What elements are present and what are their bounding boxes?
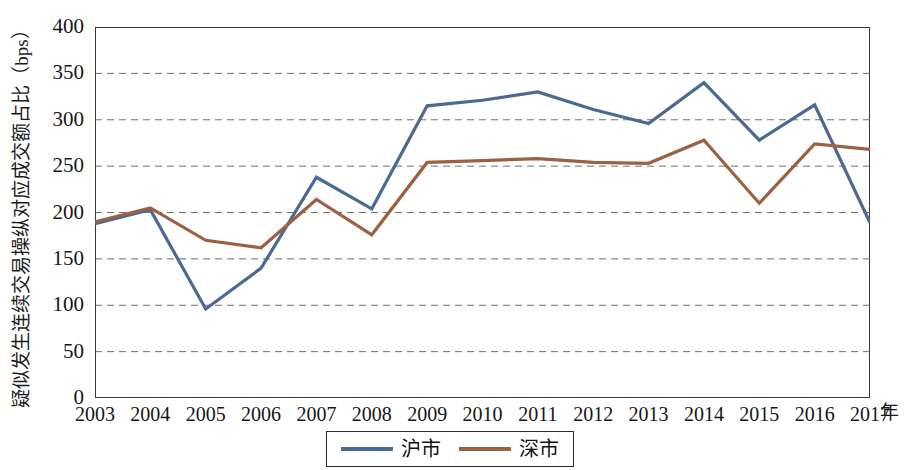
chart-page: 疑似发生连续交易操纵对应成交额占比（bps） 05010015020025030…	[0, 0, 920, 470]
x-axis-unit-label: 年	[880, 402, 899, 425]
y-tick-label: 100	[26, 294, 84, 315]
y-tick-label: 400	[26, 16, 84, 37]
legend-color-swatch	[341, 447, 393, 451]
series-line	[95, 140, 870, 248]
legend-item[interactable]: 沪市	[341, 439, 441, 459]
legend-label: 沪市	[401, 439, 441, 459]
y-tick-label: 150	[26, 248, 84, 269]
y-tick-label: 200	[26, 202, 84, 223]
legend-color-swatch	[459, 447, 511, 451]
y-tick-label: 250	[26, 155, 84, 176]
gridlines	[95, 73, 870, 351]
x-axis-tick-labels: 2003200420052006200720082009201020112012…	[95, 402, 870, 430]
chart-plot	[95, 27, 870, 398]
y-tick-label: 350	[26, 62, 84, 83]
legend-label: 深市	[519, 439, 559, 459]
chart-legend: 沪市深市	[326, 431, 574, 467]
y-tick-label: 50	[26, 341, 84, 362]
series-lines	[95, 83, 870, 309]
y-axis-tick-marks	[95, 27, 96, 398]
y-axis-tick-labels: 050100150200250300350400	[20, 0, 84, 470]
legend-item[interactable]: 深市	[459, 439, 559, 459]
y-tick-label: 300	[26, 109, 84, 130]
